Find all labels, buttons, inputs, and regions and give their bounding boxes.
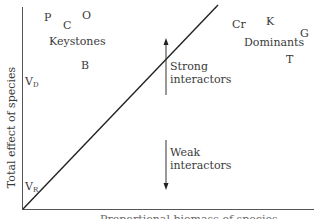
point-P: P xyxy=(44,12,51,23)
point-T: T xyxy=(286,54,293,65)
x-axis-label: Proportional biomass of species xyxy=(100,213,278,219)
vd-marker: VD xyxy=(25,76,39,91)
plot-area xyxy=(0,0,314,219)
point-O: O xyxy=(82,10,91,21)
point-B: B xyxy=(81,60,89,71)
keystones-label: Keystones xyxy=(49,36,106,47)
point-K: K xyxy=(266,16,274,27)
strong-label-1: Strong xyxy=(170,61,208,72)
weak-label-2: interactors xyxy=(170,160,231,171)
point-Cr: Cr xyxy=(232,19,246,30)
vr-marker: VR xyxy=(25,181,38,196)
strong-arrow xyxy=(164,38,169,95)
y-axis-label: Total effect of species xyxy=(5,63,18,193)
point-C: C xyxy=(63,20,71,31)
weak-label-1: Weak xyxy=(170,147,200,158)
strong-label-2: interactors xyxy=(170,74,231,85)
weak-arrow xyxy=(164,140,169,190)
dominants-label: Dominants xyxy=(244,37,304,48)
